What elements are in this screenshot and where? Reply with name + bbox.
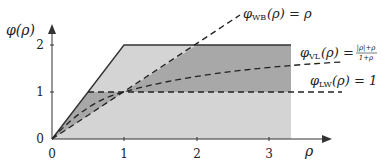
x-tick-label-3: 3 xyxy=(265,147,273,161)
y-tick-label-0: 0 xyxy=(36,132,44,146)
svg-text:LW: LW xyxy=(319,80,333,89)
y-tick-label-2: 2 xyxy=(36,38,44,52)
svg-text:|ρ|+ρ: |ρ|+ρ xyxy=(357,44,377,52)
svg-text:(ρ) =: (ρ) = xyxy=(321,45,354,60)
x-axis-arrow-icon xyxy=(322,135,332,143)
x-tick-label-0: 0 xyxy=(48,147,56,161)
x-tick-label-1: 1 xyxy=(120,147,128,161)
y-tick-label-1: 1 xyxy=(36,85,44,99)
tvd-region-diagram: 0 1 2 3 0 1 2 φ(ρ) ρ φ WB (ρ) = ρ φ VL (… xyxy=(0,0,391,168)
phi-vl-label: φ VL (ρ) = |ρ|+ρ 1+ρ xyxy=(300,44,377,62)
x-axis-label: ρ xyxy=(304,143,314,159)
svg-text:WB: WB xyxy=(252,13,266,22)
phi-lw-label: φ LW (ρ) = 1 xyxy=(310,73,377,89)
phi-wb-label: φ WB (ρ) = ρ xyxy=(243,6,312,22)
y-axis-label: φ(ρ) xyxy=(6,22,35,38)
svg-text:(ρ) = ρ: (ρ) = ρ xyxy=(267,6,312,21)
svg-text:VL: VL xyxy=(308,52,321,61)
x-tick-label-2: 2 xyxy=(193,147,201,161)
svg-text:(ρ) = 1: (ρ) = 1 xyxy=(332,73,377,88)
svg-text:1+ρ: 1+ρ xyxy=(359,54,374,62)
y-axis-arrow-icon xyxy=(48,24,56,34)
